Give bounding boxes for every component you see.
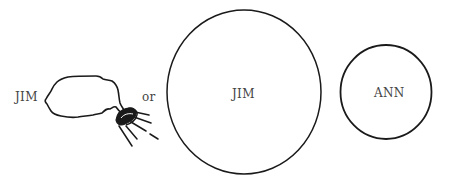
left-name-label: JIM (15, 91, 38, 103)
radiating-head-shape (116, 108, 158, 146)
or-connector-label: or (142, 91, 156, 103)
irregular-blob-shape (45, 76, 124, 117)
diagram-canvas: JIM or JIM ANN (0, 0, 454, 185)
large-circle-label: JIM (232, 88, 255, 100)
small-circle-label: ANN (374, 87, 405, 99)
